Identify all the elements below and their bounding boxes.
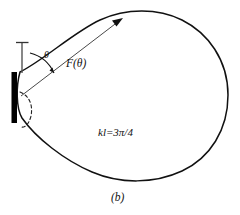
figure-caption: (b) <box>111 192 124 204</box>
theta-label: θ <box>44 50 49 60</box>
radiation-pattern-canvas <box>0 0 240 215</box>
main-lobe-curve <box>17 11 228 181</box>
antenna-element <box>12 72 18 123</box>
radiation-pattern-figure: θ F(θ) kl=3π/4 (b) <box>0 0 240 215</box>
radial-function-label: F(θ) <box>66 58 86 70</box>
parameter-label: kl=3π/4 <box>98 127 133 138</box>
